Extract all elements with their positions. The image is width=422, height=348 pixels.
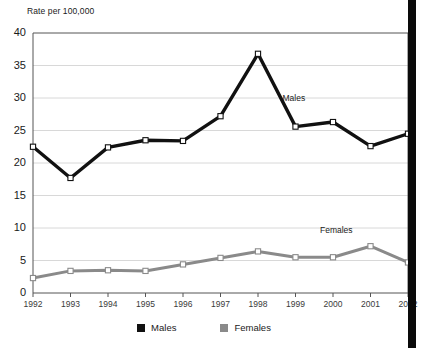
y-tick-label: 5 bbox=[2, 254, 26, 266]
chart-legend: MalesFemales bbox=[0, 322, 408, 333]
series-label-females: Females bbox=[320, 225, 353, 235]
right-edge-bar bbox=[408, 0, 416, 348]
y-tick-label: 35 bbox=[2, 59, 26, 71]
x-tick-label: 1998 bbox=[241, 299, 275, 309]
data-point-marker bbox=[30, 275, 35, 280]
data-point-marker bbox=[255, 51, 260, 56]
data-point-marker bbox=[30, 144, 35, 149]
y-tick-label: 40 bbox=[2, 26, 26, 38]
data-point-marker bbox=[330, 119, 335, 124]
data-point-marker bbox=[143, 138, 148, 143]
x-tick-label: 2001 bbox=[354, 299, 388, 309]
data-point-marker bbox=[218, 255, 223, 260]
y-tick-label: 25 bbox=[2, 124, 26, 136]
y-tick-label: 0 bbox=[2, 286, 26, 298]
data-point-marker bbox=[180, 262, 185, 267]
data-point-marker bbox=[293, 255, 298, 260]
data-point-marker bbox=[143, 268, 148, 273]
legend-item-females[interactable]: Females bbox=[220, 322, 270, 333]
x-tick-label: 1995 bbox=[129, 299, 163, 309]
data-point-marker bbox=[105, 268, 110, 273]
legend-swatch-icon bbox=[220, 324, 228, 332]
series-line-females bbox=[33, 246, 408, 278]
data-point-marker bbox=[368, 244, 373, 249]
legend-label: Males bbox=[151, 322, 176, 333]
x-tick-label: 1993 bbox=[54, 299, 88, 309]
data-point-marker bbox=[68, 268, 73, 273]
legend-item-males[interactable]: Males bbox=[137, 322, 176, 333]
y-tick-label: 20 bbox=[2, 156, 26, 168]
x-tick-label: 1994 bbox=[91, 299, 125, 309]
x-tick-label: 1992 bbox=[16, 299, 50, 309]
data-point-marker bbox=[180, 138, 185, 143]
y-tick-label: 10 bbox=[2, 221, 26, 233]
legend-swatch-icon bbox=[137, 324, 145, 332]
legend-label: Females bbox=[234, 322, 270, 333]
y-tick-label: 30 bbox=[2, 91, 26, 103]
x-tick-label: 2000 bbox=[316, 299, 350, 309]
data-point-marker bbox=[255, 249, 260, 254]
data-point-marker bbox=[293, 124, 298, 129]
data-point-marker bbox=[105, 145, 110, 150]
data-point-marker bbox=[368, 144, 373, 149]
data-point-marker bbox=[330, 255, 335, 260]
data-point-marker bbox=[218, 114, 223, 119]
x-tick-label: 1999 bbox=[279, 299, 313, 309]
x-tick-label: 1997 bbox=[204, 299, 238, 309]
x-tick-label: 2002 bbox=[391, 299, 422, 309]
data-point-marker bbox=[68, 175, 73, 180]
x-tick-label: 1996 bbox=[166, 299, 200, 309]
series-label-males: Males bbox=[283, 93, 306, 103]
y-tick-label: 15 bbox=[2, 189, 26, 201]
